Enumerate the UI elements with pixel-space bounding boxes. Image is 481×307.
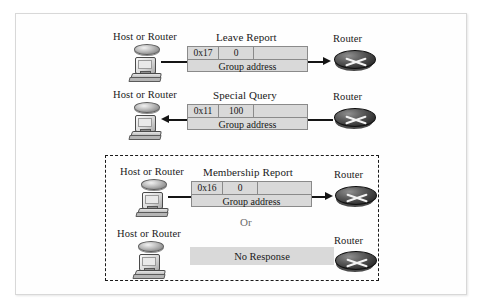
packet-type-field-2: 0x11 [188, 105, 219, 117]
host-computer-icon-4 [130, 241, 170, 279]
router-body-glyph [334, 50, 376, 69]
packet-special-query: 0x11 100 Group address [187, 104, 308, 130]
host-disk-glyph [134, 102, 160, 113]
packet-header-row-3: 0x16 0 [192, 182, 311, 195]
packet-checksum-field-2 [254, 105, 307, 117]
packet-header-row-1: 0x17 0 [188, 47, 307, 60]
router-body-glyph [334, 108, 376, 127]
host-disk-glyph [141, 179, 167, 190]
packet-membership-report: 0x16 0 Group address [191, 181, 312, 207]
host-keyboard-glyph [128, 77, 161, 82]
link-line-left-2 [169, 119, 187, 121]
arrow-right-icon-1 [323, 57, 331, 65]
router-puck-icon-3 [334, 184, 376, 208]
host-computer-icon-2 [126, 102, 166, 140]
packet-title-special-query: Special Query [213, 89, 277, 101]
router-label-2: Router [333, 91, 362, 102]
packet-leave-report: 0x17 0 Group address [187, 46, 308, 72]
host-label-3: Host or Router [120, 166, 184, 177]
host-label-2: Host or Router [113, 89, 177, 100]
packet-header-row-2: 0x11 100 [188, 105, 307, 118]
arrow-left-icon-2 [161, 115, 169, 123]
or-separator-label: Or [240, 216, 252, 228]
figure-canvas: Host or Router Leave Report 0x17 0 Group… [0, 0, 481, 307]
packet-group-address-3: Group address [192, 195, 311, 207]
host-disk-glyph [138, 241, 164, 252]
packet-type-field-1: 0x17 [188, 47, 219, 59]
link-line-right-1 [308, 61, 324, 63]
router-puck-icon-1 [333, 48, 375, 72]
router-puck-icon-2 [333, 106, 375, 130]
router-puck-icon-4 [334, 249, 376, 273]
host-keyboard-glyph [132, 274, 165, 279]
router-body-glyph [335, 186, 377, 205]
packet-checksum-field-1 [254, 47, 307, 59]
host-disk-glyph [134, 44, 160, 55]
host-computer-icon-3 [133, 179, 173, 217]
host-computer-icon [126, 44, 166, 82]
link-line-right-3 [312, 196, 326, 198]
host-label-4: Host or Router [117, 228, 181, 239]
router-body-glyph [335, 251, 377, 270]
arrow-right-icon-3 [325, 192, 333, 200]
link-line-left-3 [168, 196, 192, 198]
host-keyboard-glyph [128, 135, 161, 140]
host-keyboard-glyph [135, 212, 168, 217]
packet-checksum-field-3 [258, 182, 311, 194]
packet-second-field-1: 0 [219, 47, 254, 59]
host-label-1: Host or Router [113, 31, 177, 42]
link-line-right-2 [308, 119, 333, 121]
packet-type-field-3: 0x16 [192, 182, 223, 194]
packet-title-leave-report: Leave Report [216, 31, 277, 43]
router-label-4: Router [334, 235, 363, 246]
router-label-3: Router [334, 169, 363, 180]
no-response-bar: No Response [190, 247, 334, 265]
packet-title-membership-report: Membership Report [203, 166, 293, 178]
packet-second-field-3: 0 [223, 182, 258, 194]
router-label-1: Router [333, 33, 362, 44]
packet-group-address-2: Group address [188, 118, 307, 130]
packet-second-field-2: 100 [219, 105, 254, 117]
packet-group-address-1: Group address [188, 60, 307, 72]
link-line-left-1 [161, 61, 188, 63]
